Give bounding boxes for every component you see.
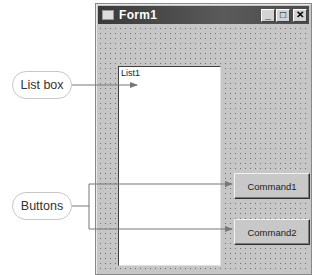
callout-list-box: List box (12, 71, 72, 99)
callout-lines (0, 0, 313, 275)
callout-buttons: Buttons (12, 192, 72, 220)
